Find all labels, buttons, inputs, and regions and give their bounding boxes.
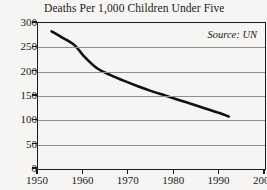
x-tick-label-2000: 2000	[253, 174, 267, 186]
gridline-y-150	[38, 96, 265, 97]
plot-area: Source: UN	[37, 22, 266, 170]
x-tick-label-1960: 1960	[71, 174, 93, 186]
gridline-y-250	[38, 47, 265, 48]
source-annotation: Source: UN	[208, 29, 257, 40]
gridline-y-200	[38, 72, 265, 73]
plot-inner	[38, 23, 265, 169]
gridline-y-100	[38, 120, 265, 121]
x-tick-label-1950: 1950	[26, 174, 48, 186]
x-tick-label-1980: 1980	[162, 174, 184, 186]
x-tick-label-1990: 1990	[208, 174, 230, 186]
x-tick-label-1970: 1970	[117, 174, 139, 186]
gridline-y-50	[38, 145, 265, 146]
series-path-0	[52, 31, 229, 116]
chart-figure: Deaths Per 1,000 Children Under Five 050…	[0, 0, 267, 190]
